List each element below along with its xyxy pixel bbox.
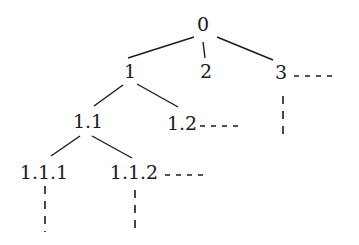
- node-1-1-2: 1.1.2: [110, 161, 158, 183]
- node-2: 2: [200, 60, 212, 82]
- edge-0-to-1: [128, 37, 194, 58]
- node-0: 0: [197, 13, 209, 35]
- edge-1-to-1-1: [94, 85, 123, 106]
- node-1-1-1: 1.1.1: [20, 161, 68, 183]
- tree-diagram: 0 1 2 3 1.1 1.2 1.1.1 1.1.2: [0, 0, 359, 245]
- edge-0-to-2: [203, 42, 205, 58]
- node-1-1: 1.1: [73, 110, 103, 132]
- node-1-2: 1.2: [167, 112, 197, 134]
- edge-1-1-to-1-1-1: [51, 136, 80, 156]
- tree-nodes: 0 1 2 3 1.1 1.2 1.1.1 1.1.2: [20, 13, 287, 183]
- edge-1-to-1-2: [137, 84, 178, 107]
- edge-0-to-3: [217, 37, 273, 60]
- node-3: 3: [275, 61, 287, 83]
- node-1: 1: [124, 60, 136, 82]
- continuation-markers: [45, 76, 337, 235]
- tree-edges: [51, 37, 273, 158]
- edge-1-1-to-1-1-2: [92, 136, 132, 158]
